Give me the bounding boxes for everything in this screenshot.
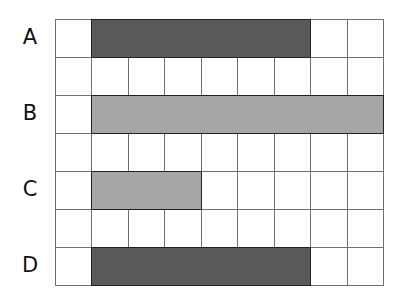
grid-cell: [347, 209, 384, 248]
bar-c: [91, 171, 201, 210]
row-label-a: A: [10, 25, 50, 49]
grid-cell: [201, 171, 238, 210]
grid-cell: [274, 57, 311, 96]
grid-cell: [347, 57, 384, 96]
bar-b: [91, 95, 384, 134]
grid-cell: [237, 171, 274, 210]
grid-cell: [274, 133, 311, 172]
grid-cell: [201, 57, 238, 96]
row-label-b: B: [10, 101, 50, 125]
grid-cell: [55, 95, 92, 134]
grid-cell: [55, 57, 92, 96]
grid-cell: [237, 209, 274, 248]
grid-cell: [201, 209, 238, 248]
grid-cell: [55, 19, 92, 58]
grid-cell: [201, 133, 238, 172]
grid: [55, 19, 383, 285]
grid-cell: [310, 171, 347, 210]
grid-cell: [91, 209, 128, 248]
grid-cell: [128, 133, 165, 172]
grid-cell: [128, 57, 165, 96]
grid-cell: [274, 171, 311, 210]
grid-cell: [347, 171, 384, 210]
grid-cell: [55, 247, 92, 286]
grid-cell: [55, 171, 92, 210]
grid-cell: [347, 19, 384, 58]
grid-cell: [310, 57, 347, 96]
grid-cell: [237, 57, 274, 96]
row-label-d: D: [10, 253, 50, 277]
grid-cell: [347, 247, 384, 286]
bar-a: [91, 19, 311, 58]
grid-cell: [310, 19, 347, 58]
grid-cell: [274, 209, 311, 248]
grid-cell: [128, 209, 165, 248]
grid-cell: [164, 209, 201, 248]
grid-cell: [91, 57, 128, 96]
grid-cell: [55, 209, 92, 248]
grid-cell: [91, 133, 128, 172]
grid-cell: [310, 209, 347, 248]
grid-cell: [237, 133, 274, 172]
grid-cell: [164, 133, 201, 172]
bar-d: [91, 247, 311, 286]
grid-cell: [55, 133, 92, 172]
grid-cell: [164, 57, 201, 96]
grid-cell: [347, 133, 384, 172]
grid-cell: [310, 247, 347, 286]
row-label-c: C: [10, 177, 50, 201]
grid-cell: [310, 133, 347, 172]
